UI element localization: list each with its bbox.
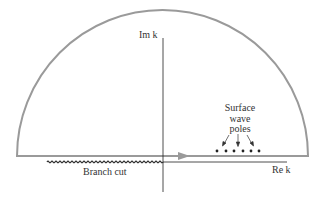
im-axis-label: Im k	[139, 29, 158, 41]
surface-wave-poles	[216, 150, 261, 153]
contour-arrow-icon	[178, 152, 190, 160]
branch-cut	[47, 161, 163, 163]
re-axis-label: Re k	[272, 164, 291, 176]
branch-cut-label: Branch cut	[83, 166, 127, 178]
poles-label-line3: poles	[215, 123, 265, 135]
pole-pointer-arrows	[223, 134, 254, 147]
